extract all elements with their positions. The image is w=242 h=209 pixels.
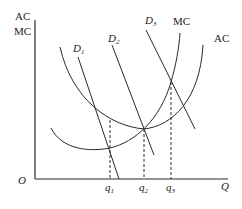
d3-label: D3 [144, 14, 157, 28]
x-axis-label: Q [221, 180, 229, 192]
ac-curve [60, 45, 203, 129]
q3-label: q3 [166, 181, 176, 195]
mc-curve [51, 33, 180, 150]
d2-label: D2 [107, 32, 120, 46]
d1-label: D1 [72, 42, 84, 56]
q1-label: q1 [105, 181, 114, 195]
ac-curve-label: AC [214, 32, 229, 44]
y-axis-label-ac: AC [15, 10, 30, 22]
q2-label: q2 [139, 181, 149, 195]
demand-curve-d2 [112, 45, 154, 155]
origin-label: O [18, 174, 26, 186]
cost-demand-diagram: AC MC O Q MC AC D1 D2 D3 q1 q2 q3 [0, 0, 242, 209]
y-axis-label-mc: MC [14, 25, 31, 37]
mc-curve-label: MC [173, 15, 190, 27]
demand-curve-d1 [78, 57, 119, 179]
